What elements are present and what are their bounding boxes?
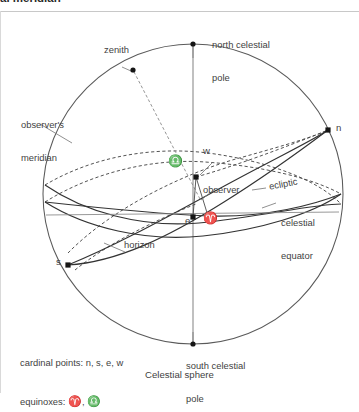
legend-autumnal-equinox-symbol: ♎ bbox=[87, 395, 101, 407]
leader-w bbox=[200, 163, 212, 175]
label-zenith: zenith bbox=[104, 44, 129, 55]
observers-meridian-line1: observer's bbox=[21, 119, 64, 130]
label-horizon: horizon bbox=[124, 239, 155, 250]
label-north-celestial-pole: north celestial pole bbox=[212, 17, 270, 105]
label-point-w: w bbox=[203, 145, 210, 156]
zenith-marker bbox=[130, 67, 135, 72]
horizon-hidden-inner-arc bbox=[196, 130, 328, 177]
celestial-sphere-diagram bbox=[0, 12, 359, 372]
legend-equinoxes-row: equinoxes: ♈, ♎ bbox=[20, 395, 123, 409]
label-celestial-equator: celestial equator bbox=[281, 195, 315, 283]
legend-vernal-equinox-symbol: ♈ bbox=[68, 395, 82, 407]
celestial-equator-line2: equator bbox=[281, 250, 315, 261]
leader-zenith bbox=[122, 67, 131, 71]
point-s-marker bbox=[65, 262, 70, 267]
point-n-marker bbox=[325, 127, 330, 132]
label-point-n: n bbox=[336, 122, 341, 133]
point-e-marker bbox=[190, 214, 195, 219]
zenith-radius-line bbox=[133, 70, 200, 199]
partial-header-text: al meridian bbox=[0, 0, 61, 4]
label-observer: observer bbox=[203, 184, 239, 195]
north-celestial-pole-line1: north celestial bbox=[212, 39, 270, 50]
partial-page-header: al meridian bbox=[0, 0, 170, 9]
label-vernal-equinox-symbol: ♈ bbox=[203, 213, 218, 224]
label-autumnal-equinox-symbol: ♎ bbox=[168, 156, 183, 167]
leader-ecliptic bbox=[252, 188, 266, 190]
celestial-equator-line1: celestial bbox=[281, 217, 315, 228]
leader-celestial-equator bbox=[262, 203, 276, 208]
north-celestial-pole-line2: pole bbox=[212, 72, 270, 83]
legend-equinoxes-label: equinoxes: bbox=[20, 396, 68, 407]
legend-cardinal-points-row: cardinal points: n, s, e, w bbox=[20, 357, 123, 370]
label-point-e: e bbox=[185, 215, 190, 226]
legend-cardinal-values: n, s, e, w bbox=[86, 357, 124, 368]
figure-caption: Celestial sphere bbox=[0, 369, 359, 380]
point-markers-group bbox=[65, 41, 330, 346]
label-point-s: s bbox=[56, 256, 61, 267]
south-celestial-pole-line2: pole bbox=[186, 393, 245, 404]
label-observers-meridian: observer's meridian bbox=[21, 97, 64, 185]
legend-cardinal-label: cardinal points: bbox=[20, 357, 86, 368]
north-celestial-pole-marker bbox=[190, 41, 195, 46]
point-w-marker bbox=[193, 174, 198, 179]
observers-meridian-line2: meridian bbox=[21, 152, 64, 163]
